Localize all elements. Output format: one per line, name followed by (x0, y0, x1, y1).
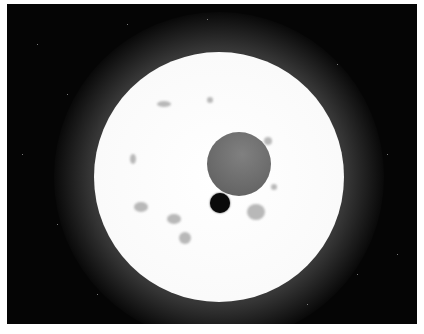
sunspot (157, 101, 171, 107)
sunspot (134, 202, 148, 212)
planet (207, 132, 271, 196)
sunspot (264, 137, 272, 145)
sunspot (247, 204, 265, 220)
space-image (7, 4, 417, 324)
sunspot (271, 184, 277, 190)
moon (210, 193, 230, 213)
sunspot (179, 232, 191, 244)
sunspot (207, 97, 213, 103)
sunspot (167, 214, 181, 224)
sunspot (130, 154, 136, 164)
